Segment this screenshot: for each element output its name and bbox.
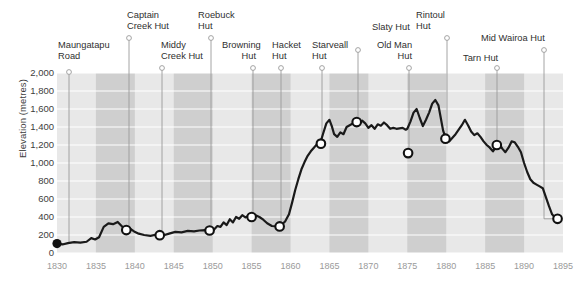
hut-label-line: Maungatapu [58,40,110,51]
hut-label-line: Captain [127,10,169,21]
leader-dot [542,48,547,53]
hut-label-line: Hut [272,51,301,62]
hut-label-line: Hut [222,51,256,62]
leader-dot [251,66,256,71]
hut-label: MiddyCreek Hut [161,40,203,61]
leader-dot [209,36,214,41]
hut-label-line: Hacket [272,40,301,51]
leader-dot [495,66,500,71]
leader-dot [445,36,450,41]
hut-label: RoebuckHut [198,10,235,31]
leader-dot [279,66,284,71]
leader-dot [67,70,72,75]
hut-label: MaungatapuRoad [58,40,110,61]
hut-label: Slaty Hut [372,22,410,33]
hut-label-line: Road [58,51,110,62]
hut-label-line: Starveall [312,40,348,51]
hut-label-line: Old Man [377,40,412,51]
leader-dot [127,36,132,41]
hut-marker [493,141,502,150]
hut-label-line: Hut [377,51,412,62]
hut-label-line: Rintoul [416,10,445,21]
hut-marker [441,134,450,143]
hut-label: Old ManHut [377,40,412,61]
hut-label-line: Tarn Hut [463,53,498,64]
hut-label-line: Hut [416,21,445,32]
hut-marker [205,226,214,235]
hut-marker [275,222,284,231]
leader-dot [320,66,325,71]
hut-marker [553,215,562,224]
leader-dot [160,66,165,71]
hut-marker [122,226,131,235]
hut-marker [352,118,361,127]
hut-label: CaptainCreek Hut [127,10,169,31]
hut-label: Mid Wairoa Hut [481,33,545,44]
hut-label-line: Browning [222,40,256,51]
hut-label: HacketHut [272,40,301,61]
hut-marker [317,139,326,148]
leader-dot [356,48,361,53]
hut-label: StarveallHut [312,40,348,61]
hut-label-line: Creek Hut [127,21,169,32]
hut-label-line: Middy [161,40,203,51]
hut-label-line: Creek Hut [161,51,203,62]
leader-dot [407,66,412,71]
hut-label-line: Hut [198,21,235,32]
hut-marker [247,213,256,222]
hut-marker [404,149,413,158]
hut-label: BrowningHut [222,40,256,61]
hut-marker [155,231,164,240]
hut-label-line: Slaty Hut [372,22,410,33]
hut-label: RintoulHut [416,10,445,31]
hut-marker-filled [52,239,61,248]
hut-label-line: Roebuck [198,10,235,21]
hut-label: Tarn Hut [463,53,498,64]
hut-label-line: Mid Wairoa Hut [481,33,545,44]
hut-label-line: Hut [312,51,348,62]
